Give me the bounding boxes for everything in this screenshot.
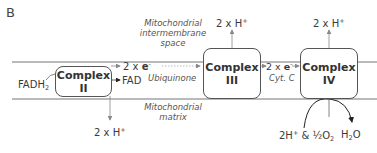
label-line: space xyxy=(136,38,210,48)
fadh2-label: FADH2 xyxy=(18,80,49,92)
protons-complex-ii: 2 x H+ xyxy=(94,127,126,138)
label-line: Mitochondrial xyxy=(136,102,210,112)
complex-iii-box: Complex III xyxy=(203,48,261,99)
complex-name: Complex xyxy=(57,69,110,82)
water-o: O xyxy=(353,129,361,140)
protons-text: 2 x H xyxy=(94,127,120,138)
water-product-label: H2O xyxy=(341,130,361,142)
oxygen-text: & ½O xyxy=(298,130,330,141)
protons-charge: + xyxy=(242,17,247,25)
complex-ii-box: Complex II xyxy=(55,66,112,97)
electrons-label-2: 2 x e- xyxy=(266,61,293,72)
label-line: Mitochondrial xyxy=(136,18,210,28)
electron-charge: - xyxy=(148,60,150,68)
protons-charge: + xyxy=(339,17,344,25)
fadh2-base: FADH xyxy=(18,79,45,90)
cytochrome-c-label: Cyt. C xyxy=(269,73,295,83)
ubiquinone-label: Ubiquinone xyxy=(148,73,196,83)
electrons-label-1: 2 x e- xyxy=(123,61,151,72)
protons-text: 2 x H xyxy=(313,18,339,29)
complex-number: III xyxy=(226,74,238,87)
matrix-label: Mitochondrial matrix xyxy=(136,102,210,122)
fadh2-sub: 2 xyxy=(45,84,49,92)
electrons-prefix: 2 x xyxy=(266,61,284,72)
electrons-prefix: 2 x xyxy=(123,61,142,72)
label-line: intermembrane xyxy=(136,28,210,38)
complex-name: Complex xyxy=(205,61,258,74)
oxygen-sub: 2 xyxy=(330,135,334,143)
complex-name: Complex xyxy=(302,61,355,74)
fad-label: FAD xyxy=(122,76,141,86)
panel-label: B xyxy=(6,6,15,19)
complex-number: II xyxy=(79,82,87,95)
protons-complex-iv: 2 x H+ xyxy=(313,18,345,29)
electron-charge: - xyxy=(290,60,292,68)
protons-charge: + xyxy=(120,126,125,134)
protons-text: 2 x H xyxy=(216,18,242,29)
complex-number: IV xyxy=(323,74,336,87)
protons-complex-iii: 2 x H+ xyxy=(216,18,248,29)
intermembrane-space-label: Mitochondrial intermembrane space xyxy=(136,18,210,48)
label-line: matrix xyxy=(136,112,210,122)
water-h: H xyxy=(341,129,349,140)
complex-iv-box: Complex IV xyxy=(300,48,358,99)
oxygen-reactant-label: 2H+ & ½O2 xyxy=(279,130,334,143)
protons-text: 2H xyxy=(279,130,293,141)
